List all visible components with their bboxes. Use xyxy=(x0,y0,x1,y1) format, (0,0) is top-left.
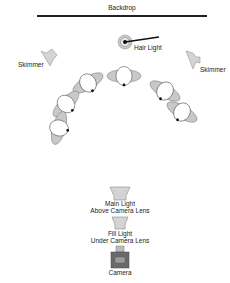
camera-label: Camera xyxy=(108,269,131,277)
fill-light-icon xyxy=(112,217,128,229)
camera-icon xyxy=(111,246,129,268)
subject-left-3 xyxy=(45,109,73,147)
skimmer-left-label: Skimmer xyxy=(18,61,44,69)
fill-light-label-line2: Under Camera Lens xyxy=(91,237,150,245)
subject-top-center xyxy=(107,67,141,87)
skimmer-right-icon xyxy=(186,51,200,69)
subject-right-2 xyxy=(162,95,201,129)
skimmer-right-label: Skimmer xyxy=(200,66,226,74)
backdrop-label: Backdrop xyxy=(108,4,135,12)
hair-light-label: Hair Light xyxy=(134,44,162,52)
main-light-icon xyxy=(110,187,130,200)
main-light-label-line2: Above Camera Lens xyxy=(90,207,149,215)
